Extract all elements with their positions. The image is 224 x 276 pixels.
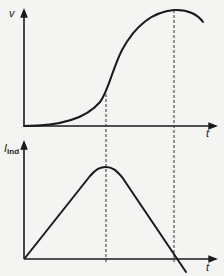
bottom-x-label: t: [206, 261, 210, 273]
bottom-plot: Iind t: [4, 142, 216, 273]
bottom-y-label: Iind: [4, 142, 19, 156]
top-plot: v t: [9, 7, 216, 139]
top-x-label: t: [206, 127, 210, 139]
top-y-label: v: [9, 7, 16, 19]
diagram-canvas: v t Iind t: [0, 0, 224, 276]
velocity-curve: [24, 10, 203, 126]
